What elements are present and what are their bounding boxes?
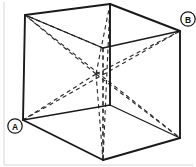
cube-figure: A B [0,0,196,167]
vertex-label-b-text: B [185,15,191,25]
edge-bottom-front-to-right [103,138,180,160]
vertex-label-a-text: A [12,122,18,132]
hidden-edges-group [25,15,103,160]
figure-frame [4,2,193,165]
vertex-label-a[interactable]: A [8,119,22,133]
edge-top-topmid-to-right [110,4,180,31]
edge-top-right-to-frontcenter [103,31,180,48]
diagonal-center-upper-left [25,15,96,74]
edge-top-frontcenter-to-backleft [25,15,103,48]
edge-top-backleft-to-topmid [25,4,110,15]
diagonal-center-bottom [96,74,103,160]
vertex-label-b[interactable]: B [181,12,195,26]
edge-vertical-left [23,15,25,120]
edge-bottom-left-to-front [23,120,103,160]
space-diagonals-group [23,4,180,160]
cube-diagram-svg: A B [0,0,196,167]
edge-mid-left-to-center [23,105,110,120]
diagonal-center-lower-right [96,74,180,138]
